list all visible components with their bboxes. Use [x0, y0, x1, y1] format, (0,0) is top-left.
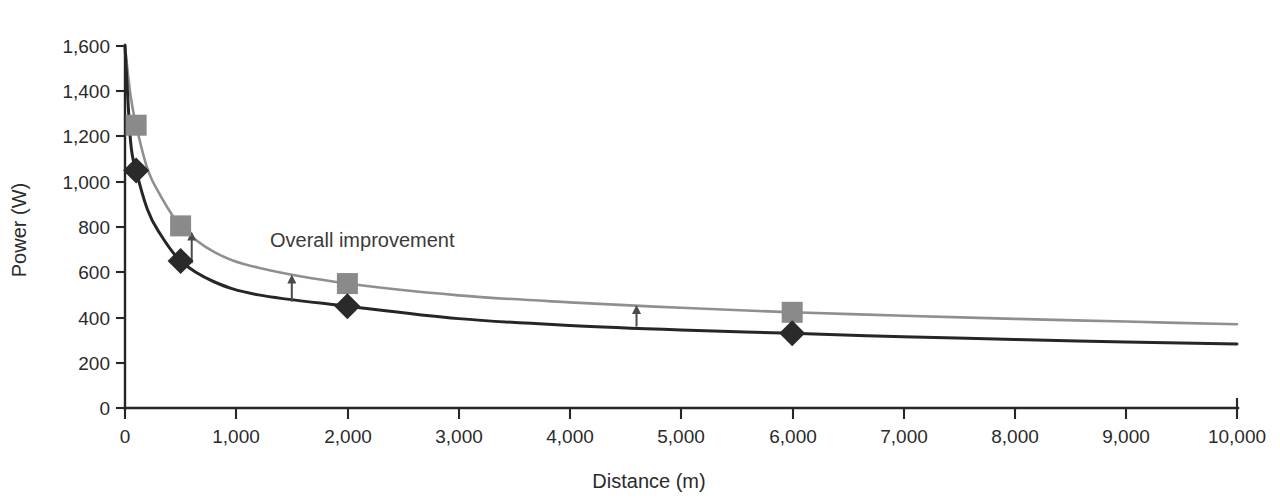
y-tick-label-600: 600 [78, 262, 110, 283]
chart-canvas: 0 200 400 600 800 1,000 1,200 1,400 1,60… [0, 0, 1280, 503]
y-tick-marks [116, 46, 125, 408]
data-point-marker-diamond [779, 320, 805, 346]
x-tick-label-1000: 1,000 [212, 426, 260, 447]
x-tick-marks [125, 408, 1237, 419]
data-point-marker-square [337, 273, 358, 294]
y-tick-labels: 0 200 400 600 800 1,000 1,200 1,400 1,60… [62, 36, 110, 419]
x-tick-label-7000: 7,000 [880, 426, 928, 447]
y-tick-label-1000: 1,000 [62, 172, 110, 193]
y-tick-label-800: 800 [78, 217, 110, 238]
y-tick-label-400: 400 [78, 308, 110, 329]
power-vs-distance-chart: 0 200 400 600 800 1,000 1,200 1,400 1,60… [0, 0, 1280, 503]
x-tick-label-8000: 8,000 [991, 426, 1039, 447]
x-tick-label-0: 0 [120, 426, 131, 447]
x-tick-label-4000: 4,000 [546, 426, 594, 447]
overall-improvement-label: Overall improvement [270, 229, 455, 251]
y-tick-label-1600: 1,600 [62, 36, 110, 57]
x-axis-title: Distance (m) [592, 470, 705, 492]
data-point-marker-square [126, 115, 147, 136]
y-tick-label-0: 0 [99, 398, 110, 419]
data-point-marker-diamond [334, 293, 360, 319]
x-tick-label-2000: 2,000 [324, 426, 372, 447]
data-point-marker-square [782, 302, 803, 323]
y-axis-title: Power (W) [8, 183, 30, 277]
x-tick-label-10000: 10,000 [1208, 426, 1266, 447]
y-tick-label-1400: 1,400 [62, 81, 110, 102]
y-tick-label-1200: 1,200 [62, 126, 110, 147]
x-tick-label-6000: 6,000 [769, 426, 817, 447]
upper-series-markers [126, 115, 803, 323]
x-tick-label-3000: 3,000 [435, 426, 483, 447]
x-tick-label-9000: 9,000 [1102, 426, 1150, 447]
x-tick-label-5000: 5,000 [657, 426, 705, 447]
x-tick-labels: 0 1,000 2,000 3,000 4,000 5,000 6,000 7,… [120, 426, 1266, 447]
data-point-marker-square [170, 215, 191, 236]
y-tick-label-200: 200 [78, 353, 110, 374]
